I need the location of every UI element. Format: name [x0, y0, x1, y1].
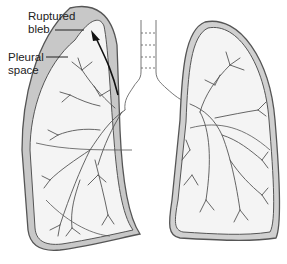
ruptured-bleb-label-line1: Ruptured — [28, 10, 75, 23]
pleural-space-label-line2: space — [8, 64, 44, 77]
ruptured-bleb-label: Ruptured bleb — [28, 10, 75, 36]
trachea — [125, 20, 190, 110]
right-lung — [170, 21, 280, 240]
left-lung — [22, 7, 140, 251]
lung-diagram — [0, 0, 287, 264]
pleural-space-label: Pleural space — [8, 51, 44, 77]
ruptured-bleb-label-line2: bleb — [28, 23, 75, 36]
pleural-space-label-line1: Pleural — [8, 51, 44, 64]
